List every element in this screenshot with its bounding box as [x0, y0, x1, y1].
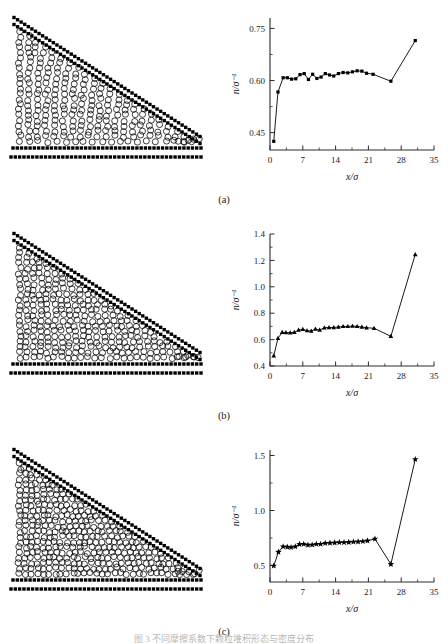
chart-panel-a: 07142128350.450.600.75x/σn/σ⁻¹ — [222, 0, 447, 200]
svg-text:14: 14 — [331, 371, 341, 381]
svg-text:21: 21 — [364, 155, 373, 165]
svg-text:0.60: 0.60 — [249, 76, 265, 86]
svg-text:0.4: 0.4 — [254, 361, 266, 371]
simulation-panel-c — [0, 432, 220, 632]
figure-container: 07142128350.450.600.75x/σn/σ⁻¹ (a) 07142… — [0, 0, 448, 644]
svg-text:28: 28 — [397, 155, 407, 165]
svg-text:0: 0 — [268, 371, 273, 381]
chart-panel-c: 07142128350.51.01.5x/σn/σ⁻¹ — [222, 432, 447, 632]
panel-c: 07142128350.51.01.5x/σn/σ⁻¹ (c) — [0, 432, 448, 644]
svg-text:x/σ: x/σ — [345, 171, 359, 182]
svg-text:1.0: 1.0 — [254, 282, 266, 292]
svg-text:7: 7 — [301, 155, 306, 165]
svg-text:x/σ: x/σ — [345, 387, 359, 398]
svg-text:1.5: 1.5 — [254, 451, 266, 461]
simulation-panel-b — [0, 216, 220, 416]
svg-text:1.2: 1.2 — [254, 256, 265, 266]
svg-text:7: 7 — [301, 587, 306, 597]
svg-text:n/σ⁻¹: n/σ⁻¹ — [230, 74, 241, 95]
svg-text:0.5: 0.5 — [254, 561, 266, 571]
svg-text:14: 14 — [331, 155, 341, 165]
svg-text:1.4: 1.4 — [254, 229, 266, 239]
svg-text:21: 21 — [364, 371, 373, 381]
svg-text:0.75: 0.75 — [249, 24, 265, 34]
svg-text:28: 28 — [397, 371, 407, 381]
svg-text:21: 21 — [364, 587, 373, 597]
svg-text:1.0: 1.0 — [254, 506, 266, 516]
svg-text:35: 35 — [430, 587, 440, 597]
chart-panel-b: 07142128350.40.60.81.01.21.4x/σn/σ⁻¹ — [222, 216, 447, 416]
svg-text:n/σ⁻¹: n/σ⁻¹ — [230, 290, 241, 311]
svg-text:n/σ⁻¹: n/σ⁻¹ — [230, 506, 241, 527]
panel-label-b: (b) — [0, 410, 448, 421]
svg-text:7: 7 — [301, 371, 306, 381]
panel-a: 07142128350.450.600.75x/σn/σ⁻¹ (a) — [0, 0, 448, 212]
svg-text:0.45: 0.45 — [249, 128, 265, 138]
svg-text:0.6: 0.6 — [254, 335, 266, 345]
svg-text:35: 35 — [430, 371, 440, 381]
svg-text:0: 0 — [268, 587, 273, 597]
simulation-panel-a — [0, 0, 220, 200]
svg-text:0.8: 0.8 — [254, 308, 266, 318]
svg-text:28: 28 — [397, 587, 407, 597]
figure-caption: 图 3 不同摩擦系数下颗粒堆积形态与密度分布 — [0, 632, 448, 644]
svg-text:35: 35 — [430, 155, 440, 165]
panel-b: 07142128350.40.60.81.01.21.4x/σn/σ⁻¹ (b) — [0, 216, 448, 428]
svg-text:14: 14 — [331, 587, 341, 597]
svg-text:0: 0 — [268, 155, 273, 165]
svg-text:x/σ: x/σ — [345, 603, 359, 614]
panel-label-a: (a) — [0, 194, 448, 205]
